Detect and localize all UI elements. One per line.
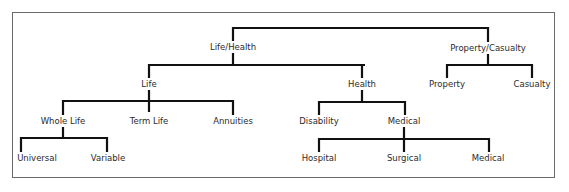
node-term-life: Term Life <box>129 116 170 126</box>
node-annuities: Annuities <box>212 116 254 126</box>
node-life-health: Life/Health <box>209 42 257 52</box>
node-property: Property <box>428 79 466 89</box>
node-surgical: Surgical <box>386 153 422 163</box>
node-property-casualty: Property/Casualty <box>449 43 527 53</box>
node-health: Health <box>347 79 377 89</box>
node-hospital: Hospital <box>301 153 338 163</box>
connector-lines <box>0 0 569 192</box>
node-casualty: Casualty <box>513 79 552 89</box>
node-whole-life: Whole Life <box>40 116 87 126</box>
node-universal: Universal <box>16 153 58 163</box>
node-life: Life <box>140 79 157 89</box>
node-disability: Disability <box>298 116 339 126</box>
node-medical-group: Medical <box>387 116 422 126</box>
node-variable: Variable <box>90 153 126 163</box>
node-medical: Medical <box>471 153 506 163</box>
